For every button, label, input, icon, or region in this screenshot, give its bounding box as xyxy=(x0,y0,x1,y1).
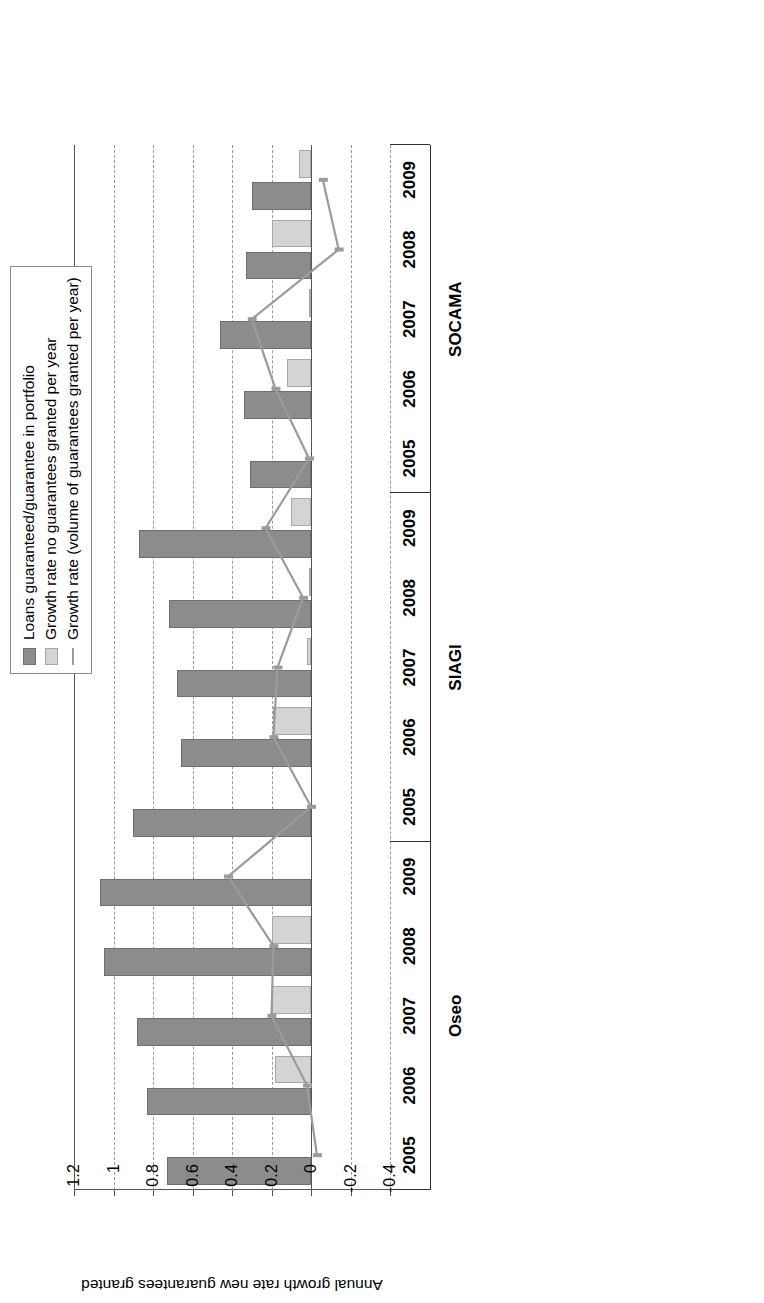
line-marker xyxy=(307,805,316,809)
category-axis-label: 2008 xyxy=(400,927,420,965)
group-separator xyxy=(390,841,430,842)
value-axis-tick-label: 1.2 xyxy=(65,1164,83,1224)
line-marker xyxy=(335,248,344,252)
line-path xyxy=(228,180,339,1155)
category-axis-label: 2007 xyxy=(400,997,420,1035)
chart-root: Loans guaranteed/guarantee in portfolio … xyxy=(0,0,764,1303)
legend-label: Loans guaranteed/guarantee in portfolio xyxy=(20,365,38,640)
legend-label: Growth rate no guarantees granted per ye… xyxy=(42,338,60,640)
category-axis-label: 2007 xyxy=(400,300,420,338)
chart-legend: Loans guaranteed/guarantee in portfolio … xyxy=(10,266,92,674)
legend-swatch-light-icon xyxy=(45,648,58,665)
legend-label: Growth rate (volume of guarantees grante… xyxy=(64,277,82,640)
line-marker xyxy=(319,178,328,182)
group-axis-label: SOCAMA xyxy=(446,281,466,357)
line-marker xyxy=(269,735,278,739)
category-axis-label: 2005 xyxy=(400,1136,420,1174)
category-axis-label: 2009 xyxy=(400,509,420,547)
value-axis-tick-label: 0.8 xyxy=(144,1164,162,1224)
legend-line-icon xyxy=(72,648,74,665)
line-marker xyxy=(305,457,314,461)
value-axis-tick-label: 1 xyxy=(105,1164,123,1224)
category-axis-label: 2006 xyxy=(400,1067,420,1105)
line-series-growth-rate-volume xyxy=(74,145,390,1190)
group-baseline xyxy=(430,145,431,493)
line-marker xyxy=(303,1084,312,1088)
value-axis-tick-label: 0.2 xyxy=(263,1164,281,1224)
group-baseline xyxy=(430,842,431,1190)
value-axis-title: Annual growth rate new guarantees grante… xyxy=(81,1276,383,1294)
chart-canvas: Loans guaranteed/guarantee in portfolio … xyxy=(0,0,764,1303)
line-marker xyxy=(262,526,271,530)
category-axis-label: 2006 xyxy=(400,718,420,756)
value-axis-tick-label: -0.4 xyxy=(381,1164,399,1224)
line-marker xyxy=(299,596,308,600)
line-marker xyxy=(271,387,280,391)
group-axis-label: Oseo xyxy=(446,995,466,1038)
line-marker xyxy=(248,317,257,321)
legend-swatch-dark-icon xyxy=(23,648,36,665)
category-axis-label: 2007 xyxy=(400,649,420,687)
category-axis-label: 2005 xyxy=(400,440,420,478)
category-axis-label: 2006 xyxy=(400,370,420,408)
legend-item-growth-rate-number: Growth rate no guarantees granted per ye… xyxy=(40,277,62,665)
value-axis-tick-label: 0.4 xyxy=(223,1164,241,1224)
gridline xyxy=(390,145,391,1190)
group-separator xyxy=(390,1189,430,1190)
value-axis-tick-label: -0.2 xyxy=(342,1164,360,1224)
category-axis-label: 2005 xyxy=(400,788,420,826)
line-marker xyxy=(313,1153,322,1157)
value-axis-tick-label: 0.6 xyxy=(184,1164,202,1224)
group-separator xyxy=(390,492,430,493)
legend-item-loans-guaranteed: Loans guaranteed/guarantee in portfolio xyxy=(18,277,40,665)
legend-item-growth-rate-volume: Growth rate (volume of guarantees grante… xyxy=(62,277,84,665)
line-marker xyxy=(268,1014,277,1018)
group-separator xyxy=(390,144,430,145)
group-axis-label: SIAGI xyxy=(446,644,466,690)
value-axis-tick-label: 0 xyxy=(302,1164,320,1224)
category-axis-label: 2008 xyxy=(400,231,420,269)
category-axis-label: 2008 xyxy=(400,579,420,617)
plot-area xyxy=(74,145,390,1190)
line-marker xyxy=(269,944,278,948)
group-baseline xyxy=(430,493,431,841)
category-axis-label: 2009 xyxy=(400,858,420,896)
category-axis-label: 2009 xyxy=(400,161,420,199)
line-marker xyxy=(273,666,282,670)
line-marker xyxy=(224,875,233,879)
